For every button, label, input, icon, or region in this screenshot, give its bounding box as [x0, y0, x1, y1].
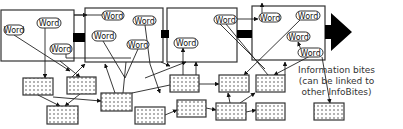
info-bite-4[interactable]: [101, 93, 132, 111]
svg-text:Word: Word: [300, 49, 321, 58]
caption-line-2: (can be linked to: [270, 76, 403, 87]
word-label[interactable]: Word: [259, 13, 281, 23]
word-label[interactable]: Word: [133, 16, 156, 26]
word-label[interactable]: Word: [50, 44, 72, 54]
word-label[interactable]: Word: [127, 40, 149, 50]
info-bite-10[interactable]: [216, 103, 246, 120]
svg-text:Word: Word: [94, 32, 115, 41]
connector-block-2: [161, 30, 169, 38]
svg-text:Word: Word: [288, 33, 309, 42]
caption-line-1: Information bites: [270, 65, 403, 76]
svg-text:Word: Word: [215, 16, 236, 25]
info-bite-2[interactable]: [67, 77, 96, 94]
info-bite-3[interactable]: [47, 106, 78, 124]
word-label[interactable]: Word: [4, 25, 25, 35]
word-label[interactable]: Word: [92, 31, 116, 41]
word-label[interactable]: Word: [298, 48, 323, 58]
info-bite-6[interactable]: [170, 75, 199, 92]
svg-text:Word: Word: [4, 26, 25, 35]
word-label[interactable]: Word: [287, 32, 310, 42]
svg-text:Word: Word: [260, 14, 281, 23]
connector-block-1: [73, 33, 85, 42]
info-bite-1[interactable]: [23, 78, 53, 95]
word-label[interactable]: Word: [37, 18, 61, 28]
svg-text:Word: Word: [51, 45, 72, 54]
word-label[interactable]: Word: [296, 11, 320, 21]
next-arrow-icon: [325, 13, 352, 51]
svg-text:Word: Word: [176, 39, 197, 48]
svg-text:Word: Word: [39, 19, 60, 28]
word-label[interactable]: Word: [214, 15, 237, 25]
svg-text:Word: Word: [103, 12, 124, 21]
info-bites-caption: Information bites (can be linked to othe…: [270, 65, 403, 98]
svg-text:Word: Word: [134, 17, 155, 26]
info-bite-12[interactable]: [314, 103, 344, 120]
svg-text:Word: Word: [298, 12, 319, 21]
word-label[interactable]: Word: [102, 11, 124, 21]
info-bite-8[interactable]: [219, 75, 249, 92]
connector-block-3: [237, 30, 252, 38]
word-label[interactable]: Word: [174, 38, 198, 48]
info-bite-11[interactable]: [256, 103, 285, 120]
caption-line-3: other InfoBites): [270, 87, 403, 98]
info-bite-5[interactable]: [135, 107, 165, 124]
svg-text:Word: Word: [128, 41, 149, 50]
info-bite-7[interactable]: [177, 100, 206, 117]
